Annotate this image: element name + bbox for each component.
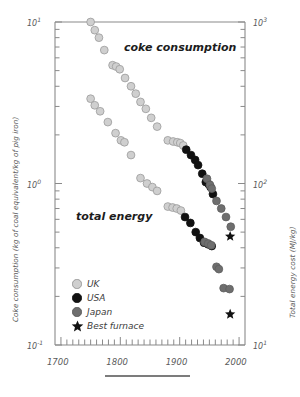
point-uk — [147, 114, 155, 122]
legend-swatch — [72, 293, 81, 302]
point-uk — [137, 174, 145, 182]
y-right-tick-1: 102 — [253, 178, 267, 190]
legend-label: UK — [87, 279, 100, 289]
caption-rule — [105, 375, 190, 377]
x-tick-1700: 1700 — [47, 357, 69, 367]
point-japan — [217, 205, 225, 213]
legend-item-japan[interactable]: Japan — [70, 305, 144, 319]
x-tick-2000: 2000 — [225, 357, 247, 367]
point-uk — [121, 74, 129, 82]
point-usa — [186, 219, 194, 227]
point-uk — [116, 65, 124, 73]
legend-swatch — [72, 279, 81, 288]
legend-label: Best furnace — [87, 321, 144, 331]
legend-label: Japan — [87, 307, 112, 317]
point-uk — [127, 151, 135, 159]
x-tick-1900: 1900 — [166, 357, 188, 367]
legend-swatch — [72, 307, 81, 316]
point-uk — [96, 107, 104, 115]
point-uk — [121, 138, 129, 146]
chart-legend: UKUSAJapanBest furnace — [70, 277, 144, 333]
point-japan — [226, 285, 234, 293]
point-best-furnace — [225, 309, 235, 319]
point-uk — [95, 34, 103, 42]
point-uk — [91, 26, 99, 34]
point-uk — [104, 118, 112, 126]
circle-icon — [70, 279, 84, 288]
annotation-total-energy: total energy — [76, 210, 152, 223]
legend-item-uk[interactable]: UK — [70, 277, 144, 291]
point-japan — [227, 223, 235, 231]
scatter-plot-canvas — [0, 0, 300, 397]
y-left-tick-0: 101 — [27, 16, 41, 28]
legend-item-best-furnace[interactable]: Best furnace — [70, 319, 144, 333]
annotation-coke-consumption: coke consumption — [124, 41, 236, 54]
point-japan — [215, 265, 223, 273]
legend-label: USA — [87, 293, 105, 303]
y-right-tick-2: 101 — [253, 339, 267, 351]
star-icon — [70, 320, 84, 333]
point-uk — [137, 98, 145, 106]
point-uk — [127, 82, 135, 90]
point-uk — [142, 105, 150, 113]
point-uk — [153, 187, 161, 195]
point-best-furnace — [225, 231, 235, 241]
y-left-tick-2: 10-1 — [27, 339, 43, 351]
x-tick-1800: 1800 — [106, 357, 128, 367]
chart-figure: Coke consumption (kg of coal equivalent/… — [0, 0, 300, 397]
y-axis-left-title: Coke consumption (kg of coal equivalent/… — [11, 117, 20, 322]
y-left-tick-1: 100 — [27, 178, 41, 190]
data-points — [87, 18, 236, 319]
point-uk — [100, 46, 108, 54]
circle-icon — [70, 307, 84, 316]
legend-item-usa[interactable]: USA — [70, 291, 144, 305]
point-uk — [87, 18, 95, 26]
point-japan — [213, 197, 221, 205]
point-usa — [194, 161, 202, 169]
point-japan — [208, 185, 216, 193]
point-japan — [207, 241, 215, 249]
y-right-tick-0: 103 — [253, 16, 267, 28]
circle-icon — [70, 293, 84, 302]
point-uk — [112, 129, 120, 137]
point-japan — [222, 213, 230, 221]
y-axis-right-title: Total energy cost (MJ/kg) — [288, 226, 297, 318]
point-uk — [153, 123, 161, 131]
point-uk — [132, 90, 140, 98]
